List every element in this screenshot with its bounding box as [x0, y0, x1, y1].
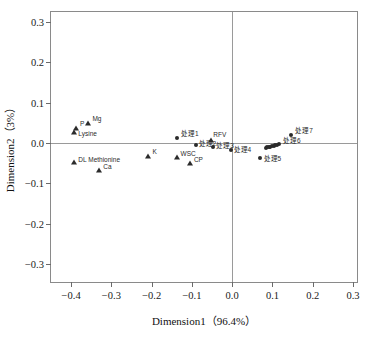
y-tick-label: 0.0 [31, 137, 44, 148]
data-point-label: 处理7 [295, 128, 313, 135]
data-point-treatments [175, 136, 179, 140]
x-tick [313, 282, 314, 287]
data-point-label: Mg [92, 116, 101, 123]
y-tick-label: −0.2 [25, 218, 44, 229]
x-tick [111, 282, 112, 287]
data-point-treatments [194, 143, 198, 147]
data-point-label: 处理6 [283, 138, 301, 145]
data-point-treatments [289, 133, 293, 137]
data-point-treatments [229, 148, 233, 152]
data-point-label: CP [194, 157, 203, 164]
y-tick-label: −0.1 [25, 178, 44, 189]
y-tick-label: −0.3 [25, 258, 44, 269]
data-point-label: Lysine [78, 131, 97, 138]
data-point-label: P [80, 121, 84, 128]
data-point-variables [145, 153, 151, 158]
y-tick [46, 103, 51, 104]
data-point-label: DL Methionine [78, 157, 120, 164]
data-point-label: Ca [103, 164, 111, 171]
data-point-variables [174, 154, 180, 159]
data-point-treatments [211, 145, 215, 149]
y-tick [46, 62, 51, 63]
y-tick-label: 0.3 [31, 17, 44, 28]
data-point-treatments [258, 156, 262, 160]
data-point-variables [96, 167, 102, 172]
x-axis-title: Dimension1（96.4%） [50, 312, 358, 328]
x-tick [272, 282, 273, 287]
y-tick [46, 224, 51, 225]
x-tick-label: 0.0 [226, 290, 239, 301]
x-tick-label: 0.3 [346, 290, 359, 301]
x-tick-label: −0.3 [102, 290, 121, 301]
x-tick [232, 282, 233, 287]
scatter-plot-figure: Dimension2（3%） −0.3−0.2−0.10.00.10.20.3 … [0, 0, 378, 337]
x-tick [192, 282, 193, 287]
x-tick [152, 282, 153, 287]
x-tick-label: 0.2 [306, 290, 319, 301]
x-tick-label: −0.1 [182, 290, 201, 301]
y-tick [46, 183, 51, 184]
data-point-label: 处理4 [234, 147, 252, 154]
data-point-label: 处理5 [264, 156, 282, 163]
y-tick-label: 0.1 [31, 97, 44, 108]
data-point-label: RFV [213, 132, 226, 139]
y-axis-title-text: Dimension2（3%） [1, 102, 17, 192]
x-tick [71, 282, 72, 287]
y-tick-label: 0.2 [31, 57, 44, 68]
x-tick-label: 0.1 [266, 290, 279, 301]
data-point-label: 处理1 [181, 131, 199, 138]
plot-area: −0.3−0.2−0.10.00.10.20.3 −0.4−0.3−0.2−0.… [50, 11, 358, 283]
data-point-variables [71, 130, 77, 135]
data-point-treatments [275, 143, 279, 147]
data-point-variables [85, 120, 91, 125]
data-point-variables [187, 161, 193, 166]
y-tick [46, 22, 51, 23]
x-tick [353, 282, 354, 287]
y-axis-title: Dimension2（3%） [2, 11, 16, 283]
x-tick-label: −0.4 [62, 290, 81, 301]
data-point-variables [71, 159, 77, 164]
y-tick [46, 143, 51, 144]
data-point-label: K [152, 149, 156, 156]
y-tick [46, 264, 51, 265]
x-tick-label: −0.2 [142, 290, 161, 301]
